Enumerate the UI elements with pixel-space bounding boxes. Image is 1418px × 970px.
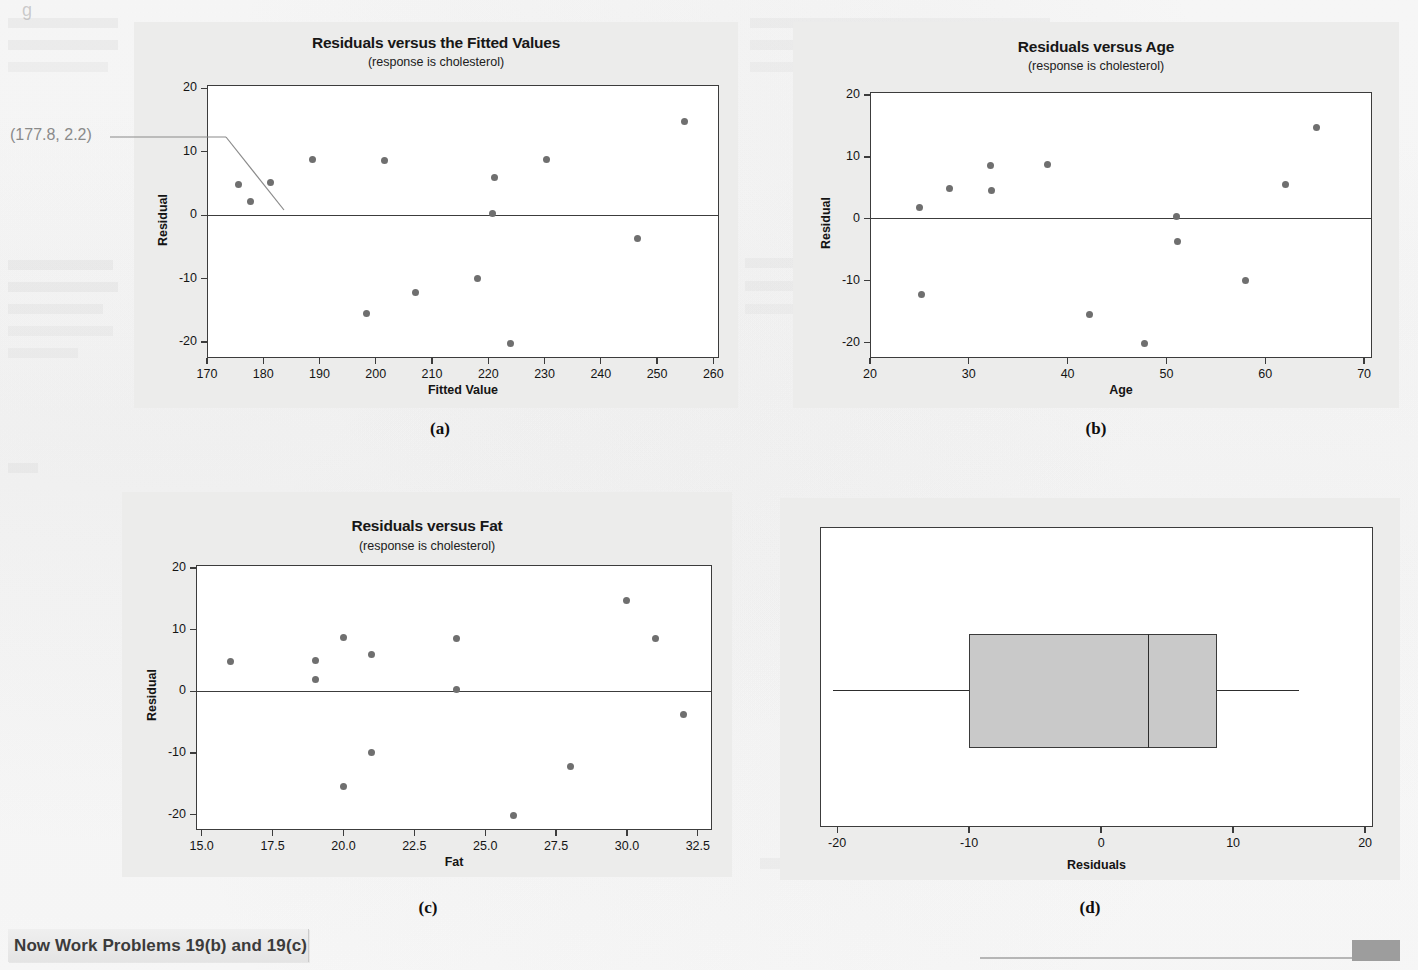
x-tick-mark xyxy=(263,358,264,364)
footer-page-marker xyxy=(1352,940,1400,961)
scatter-point xyxy=(680,711,687,718)
ghost-showthrough-line xyxy=(8,40,118,50)
x-tick-mark xyxy=(600,358,601,364)
y-tick-label: -20 xyxy=(144,807,186,821)
y-tick-mark xyxy=(190,752,196,753)
y-tick-label: 10 xyxy=(144,622,186,636)
x-tick-label: 22.5 xyxy=(389,839,439,853)
panel-c-subtitle: (response is cholesterol) xyxy=(122,539,732,553)
footer-divider xyxy=(980,957,1365,959)
x-tick-mark xyxy=(869,358,870,364)
x-tick-label: 190 xyxy=(295,367,345,381)
scatter-point xyxy=(1086,311,1093,318)
zero-reference-line xyxy=(870,218,1372,219)
x-tick-mark xyxy=(319,358,320,364)
x-tick-label: 20 xyxy=(845,367,895,381)
x-tick-mark xyxy=(272,830,273,836)
x-tick-label: 250 xyxy=(632,367,682,381)
scatter-point xyxy=(412,289,419,296)
x-tick-label: 20.0 xyxy=(318,839,368,853)
x-tick-label: 200 xyxy=(351,367,401,381)
scatter-point xyxy=(543,156,550,163)
panel-c-x-axis-title: Fat xyxy=(196,855,712,869)
ghost-showthrough-line xyxy=(8,463,38,473)
y-tick-mark xyxy=(190,567,196,568)
boxplot-lower-whisker xyxy=(833,690,969,691)
x-tick-mark xyxy=(713,358,714,364)
x-tick-label: 240 xyxy=(576,367,626,381)
x-tick-mark xyxy=(206,358,207,364)
ghost-showthrough-line xyxy=(8,282,118,292)
ghost-showthrough-line xyxy=(8,326,113,336)
y-tick-mark xyxy=(201,88,207,89)
y-tick-mark xyxy=(201,341,207,342)
scatter-point xyxy=(918,291,925,298)
scatter-point xyxy=(652,635,659,642)
boxplot-median-line xyxy=(1148,634,1150,748)
ghost-showthrough-line xyxy=(8,348,78,358)
caption-d: (d) xyxy=(1030,898,1150,918)
x-tick-label: 17.5 xyxy=(248,839,298,853)
ghost-showthrough-line xyxy=(8,304,103,314)
ghost-showthrough-line xyxy=(8,62,108,72)
ghost-showthrough-line xyxy=(8,260,113,270)
y-tick-label: 20 xyxy=(155,80,197,94)
now-work-banner-label: Now Work Problems 19(b) and 19(c) xyxy=(14,936,307,956)
scatter-point xyxy=(1282,181,1289,188)
scatter-point xyxy=(1242,277,1249,284)
x-tick-mark xyxy=(201,830,202,836)
scatter-point xyxy=(381,157,388,164)
x-tick-label: 0 xyxy=(1076,836,1126,850)
x-tick-label: 170 xyxy=(182,367,232,381)
x-tick-mark xyxy=(1067,358,1068,364)
y-tick-label: 10 xyxy=(818,149,860,163)
y-tick-label: 0 xyxy=(155,207,197,221)
scatter-point xyxy=(227,658,234,665)
x-tick-mark xyxy=(626,830,627,836)
annotation-point-label: (177.8, 2.2) xyxy=(10,126,92,144)
boxplot-upper-whisker xyxy=(1217,690,1299,691)
zero-reference-line xyxy=(207,215,719,216)
x-tick-label: 10 xyxy=(1208,836,1258,850)
y-tick-mark xyxy=(864,280,870,281)
panel-b-plot-area xyxy=(870,92,1372,358)
x-tick-label: 15.0 xyxy=(177,839,227,853)
y-tick-label: 20 xyxy=(144,560,186,574)
x-tick-label: 230 xyxy=(520,367,570,381)
x-tick-label: 40 xyxy=(1043,367,1093,381)
scatter-point xyxy=(235,181,242,188)
x-tick-label: 260 xyxy=(688,367,738,381)
x-tick-mark xyxy=(431,358,432,364)
x-tick-mark xyxy=(343,830,344,836)
y-tick-mark xyxy=(864,342,870,343)
y-tick-mark xyxy=(190,629,196,630)
scatter-point xyxy=(507,340,514,347)
caption-c: (c) xyxy=(368,898,488,918)
x-tick-mark xyxy=(544,358,545,364)
x-tick-mark xyxy=(1265,358,1266,364)
x-tick-mark xyxy=(555,830,556,836)
y-tick-label: -20 xyxy=(155,334,197,348)
x-tick-mark xyxy=(837,827,838,833)
x-tick-mark xyxy=(375,358,376,364)
x-tick-label: 220 xyxy=(463,367,513,381)
scatter-point xyxy=(1174,238,1181,245)
panel-b-x-axis-title: Age xyxy=(870,383,1372,397)
y-tick-label: -10 xyxy=(144,745,186,759)
panel-b-title: Residuals versus Age xyxy=(793,38,1399,56)
x-tick-label: 60 xyxy=(1240,367,1290,381)
boxplot-iqr-box xyxy=(969,634,1217,748)
ghost-showthrough-line xyxy=(8,18,118,28)
panel-a-x-axis-title: Fitted Value xyxy=(207,383,719,397)
x-tick-mark xyxy=(1100,827,1101,833)
x-tick-label: 30.0 xyxy=(602,839,652,853)
y-tick-label: 20 xyxy=(818,87,860,101)
scatter-point xyxy=(312,676,319,683)
x-tick-label: 25.0 xyxy=(460,839,510,853)
x-tick-mark xyxy=(656,358,657,364)
x-tick-label: 70 xyxy=(1339,367,1389,381)
y-tick-mark xyxy=(201,151,207,152)
x-tick-label: -20 xyxy=(812,836,862,850)
x-tick-label: 180 xyxy=(238,367,288,381)
x-tick-mark xyxy=(414,830,415,836)
